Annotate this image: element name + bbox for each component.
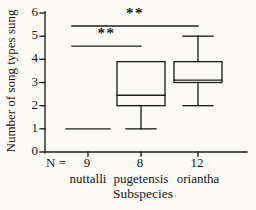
ytick-label-4: 4 [18, 51, 38, 65]
ytick-label-0: 0 [18, 144, 38, 158]
box-pugetensis [117, 62, 165, 106]
n-value-pugetensis: 8 [120, 156, 160, 170]
y-axis-label: Number of song types sung [4, 10, 18, 153]
n-equals-label: N = [46, 156, 66, 170]
ytick-label-5: 5 [18, 28, 38, 42]
ytick-label-2: 2 [18, 98, 38, 112]
boxplot-figure: Number of song types sung 6 5 4 3 2 1 0 … [0, 0, 256, 210]
category-label-oriantha: oriantha [153, 172, 243, 186]
n-value-oriantha: 12 [177, 156, 217, 170]
ytick-label-1: 1 [18, 121, 38, 135]
significance-label-0: ** [115, 6, 155, 20]
ytick-label-3: 3 [18, 75, 38, 89]
ytick-label-6: 6 [18, 5, 38, 19]
n-value-nuttalli: 9 [67, 156, 107, 170]
x-axis-label: Subspecies [93, 186, 193, 201]
box-oriantha [174, 62, 222, 83]
significance-label-1: ** [87, 26, 127, 40]
